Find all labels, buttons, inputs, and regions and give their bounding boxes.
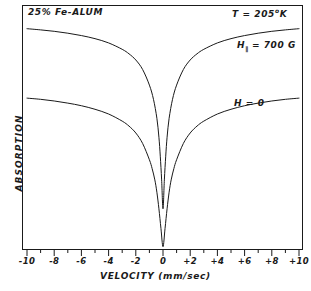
curve-group — [27, 29, 299, 247]
applied-field-annotation: H∥ = 700 G — [237, 41, 296, 52]
x-tick-label: 0 — [160, 256, 166, 266]
mossbauer-absorption-figure: 25% Fe-ALUM T = 205oK H∥ = 700 G H = 0 A… — [0, 0, 311, 291]
x-tick-label: -10 — [19, 256, 35, 266]
y-axis-label: ABSORPTION — [14, 98, 24, 208]
field-subscript: ∥ — [245, 45, 248, 52]
field-value: = 700 G — [252, 40, 296, 50]
temperature-value: T = 205 — [232, 9, 275, 19]
x-axis-label: VELOCITY (mm/sec) — [0, 271, 311, 281]
x-tick-label: +10 — [289, 256, 309, 266]
temperature-unit: K — [280, 9, 288, 19]
field-symbol: H — [237, 40, 245, 50]
x-tick-label: +2 — [183, 256, 197, 266]
x-tick-label: -4 — [104, 256, 114, 266]
x-tick-label: -6 — [76, 256, 86, 266]
x-tick-label: +6 — [238, 256, 252, 266]
x-tick-label: -2 — [131, 256, 141, 266]
x-tick-label: +4 — [211, 256, 225, 266]
absorption-curve — [27, 29, 299, 209]
zero-field-annotation: H = 0 — [234, 99, 265, 108]
absorption-curve — [27, 98, 299, 247]
x-tick-label: +8 — [265, 256, 279, 266]
x-tick-label: -8 — [49, 256, 59, 266]
sample-title-annotation: 25% Fe-ALUM — [28, 8, 103, 17]
temperature-annotation: T = 205oK — [232, 8, 287, 19]
